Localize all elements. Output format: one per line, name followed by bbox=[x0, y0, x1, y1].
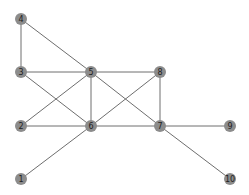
edge-4-5 bbox=[21, 19, 91, 72]
node-1: 1 bbox=[15, 173, 27, 185]
edge-1-6 bbox=[21, 126, 91, 179]
node-label: 4 bbox=[18, 15, 23, 24]
node-7: 7 bbox=[154, 120, 166, 132]
node-label: 8 bbox=[157, 68, 162, 77]
edge-layer bbox=[21, 19, 230, 179]
node-label: 10 bbox=[225, 175, 235, 184]
edge-7-10 bbox=[160, 126, 230, 179]
node-8: 8 bbox=[154, 66, 166, 78]
node-2: 2 bbox=[15, 120, 27, 132]
node-label: 2 bbox=[18, 122, 23, 131]
node-label: 6 bbox=[88, 122, 93, 131]
node-3: 3 bbox=[15, 66, 27, 78]
node-5: 5 bbox=[85, 66, 97, 78]
node-10: 10 bbox=[224, 173, 236, 185]
node-6: 6 bbox=[85, 120, 97, 132]
node-label: 3 bbox=[18, 68, 23, 77]
node-label: 5 bbox=[88, 68, 93, 77]
node-label: 1 bbox=[18, 175, 23, 184]
node-label: 7 bbox=[157, 122, 162, 131]
node-4: 4 bbox=[15, 13, 27, 25]
node-9: 9 bbox=[224, 120, 236, 132]
node-label: 9 bbox=[227, 122, 232, 131]
graph-diagram: 12345678910 bbox=[0, 0, 249, 195]
